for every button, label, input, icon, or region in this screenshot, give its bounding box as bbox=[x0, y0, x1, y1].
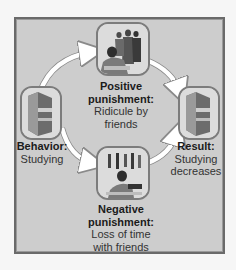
positive-punishment-label: Positive punishment: Ridicule by friends bbox=[78, 80, 164, 130]
behavior-label: Behavior: Studying bbox=[14, 140, 70, 165]
result-desc-1: Studying bbox=[166, 153, 226, 166]
result-desc-2: decreases bbox=[166, 165, 226, 178]
book-icon bbox=[180, 88, 218, 138]
students-ridicule-icon bbox=[98, 24, 148, 74]
negative-desc-2: with friends bbox=[78, 241, 164, 254]
positive-desc-1: Ridicule by bbox=[78, 105, 164, 118]
negative-desc-1: Loss of time bbox=[78, 228, 164, 241]
negative-title-1: Negative bbox=[78, 203, 164, 216]
book-icon bbox=[22, 88, 60, 138]
positive-desc-2: friends bbox=[78, 118, 164, 131]
result-label: Result: Studying decreases bbox=[166, 140, 226, 178]
positive-title-1: Positive bbox=[78, 80, 164, 93]
behavior-title: Behavior: bbox=[14, 140, 70, 153]
negative-punishment-label: Negative punishment: Loss of time with f… bbox=[78, 203, 164, 253]
student-studying-alone-icon bbox=[98, 148, 148, 198]
result-book-icon-box bbox=[178, 86, 220, 140]
negative-punishment-illustration bbox=[96, 146, 150, 200]
behavior-book-icon-box bbox=[20, 86, 62, 140]
positive-title-2: punishment: bbox=[78, 93, 164, 106]
result-title: Result: bbox=[166, 140, 226, 153]
behavior-desc: Studying bbox=[14, 153, 70, 166]
positive-punishment-illustration bbox=[96, 22, 150, 76]
negative-title-2: punishment: bbox=[78, 216, 164, 229]
